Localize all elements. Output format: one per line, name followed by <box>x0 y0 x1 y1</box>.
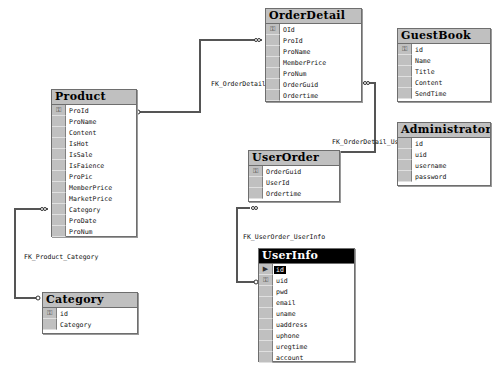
row-pointer-icon[interactable]: ▶ <box>259 264 273 275</box>
table-category[interactable]: Category ⚿idCategory <box>42 292 138 334</box>
field-row[interactable]: email <box>259 297 354 308</box>
row-selector[interactable] <box>249 177 263 188</box>
row-selector[interactable] <box>398 160 412 171</box>
table-title[interactable]: OrderDetail <box>266 9 361 24</box>
table-title[interactable]: UserInfo <box>259 249 354 264</box>
field-row[interactable]: SendTime <box>398 88 490 99</box>
field-row[interactable]: MemberPrice <box>52 182 136 193</box>
table-title[interactable]: GuestBook <box>398 29 490 44</box>
field-row[interactable]: ProId <box>266 35 361 46</box>
table-administrator[interactable]: Administrator iduidusernamepassword <box>397 122 491 186</box>
field-row[interactable]: ProNum <box>52 226 136 237</box>
field-row[interactable]: uid <box>398 149 490 160</box>
row-selector[interactable] <box>259 352 273 363</box>
field-row[interactable]: Ordertime <box>249 188 339 199</box>
row-selector[interactable] <box>266 79 280 90</box>
field-row[interactable]: uname <box>259 308 354 319</box>
row-selector[interactable] <box>259 330 273 341</box>
row-selector[interactable] <box>52 160 66 171</box>
field-row[interactable]: ⚿ProId <box>52 105 136 116</box>
field-row[interactable]: password <box>398 171 490 182</box>
key-icon[interactable]: ⚿ <box>259 275 273 286</box>
key-icon[interactable]: ⚿ <box>398 44 412 55</box>
row-selector[interactable] <box>52 149 66 160</box>
field-row[interactable]: ProPic <box>52 171 136 182</box>
row-selector[interactable] <box>266 68 280 79</box>
row-selector[interactable] <box>52 215 66 226</box>
field-row[interactable]: Category <box>43 319 137 330</box>
field-row[interactable]: account <box>259 352 354 363</box>
row-selector[interactable] <box>52 138 66 149</box>
row-selector[interactable] <box>266 46 280 57</box>
field-row[interactable]: MemberPrice <box>266 57 361 68</box>
field-row[interactable]: ProDate <box>52 215 136 226</box>
table-guestbook[interactable]: GuestBook ⚿idNameTitleContentSendTime <box>397 28 491 102</box>
table-userinfo[interactable]: UserInfo ▶id⚿uidpwdemailunameuaddressuph… <box>258 248 355 362</box>
field-row[interactable]: ▶id <box>259 264 354 275</box>
row-selector[interactable] <box>259 286 273 297</box>
row-selector[interactable] <box>398 171 412 182</box>
key-icon[interactable]: ⚿ <box>52 105 66 116</box>
field-row[interactable]: username <box>398 160 490 171</box>
table-title[interactable]: Category <box>43 293 137 308</box>
row-selector[interactable] <box>398 149 412 160</box>
row-selector[interactable] <box>259 308 273 319</box>
field-row[interactable]: IsHot <box>52 138 136 149</box>
table-title[interactable]: UserOrder <box>249 151 339 166</box>
row-selector[interactable] <box>398 66 412 77</box>
field-row[interactable]: Name <box>398 55 490 66</box>
field-row[interactable]: OrderGuid <box>266 79 361 90</box>
field-name: id <box>57 310 68 318</box>
field-row[interactable]: UserId <box>249 177 339 188</box>
table-userorder[interactable]: UserOrder ⚿OrderGuidUserIdOrdertime <box>248 150 340 202</box>
row-selector[interactable] <box>52 226 66 237</box>
field-row[interactable]: Title <box>398 66 490 77</box>
field-name: username <box>412 162 446 170</box>
key-icon[interactable]: ⚿ <box>43 308 57 319</box>
row-selector[interactable] <box>398 77 412 88</box>
field-row[interactable]: ⚿uid <box>259 275 354 286</box>
row-selector[interactable] <box>52 204 66 215</box>
field-row[interactable]: Ordertime <box>266 90 361 101</box>
row-selector[interactable] <box>259 341 273 352</box>
table-product[interactable]: Product ⚿ProIdProNameContentIsHotIsSaleI… <box>51 89 137 237</box>
table-title[interactable]: Product <box>52 90 136 105</box>
row-selector[interactable] <box>266 57 280 68</box>
row-selector[interactable] <box>43 319 57 330</box>
field-row[interactable]: ⚿OId <box>266 24 361 35</box>
field-row[interactable]: MarketPrice <box>52 193 136 204</box>
field-row[interactable]: Content <box>52 127 136 138</box>
field-row[interactable]: IsSale <box>52 149 136 160</box>
key-icon[interactable]: ⚿ <box>266 24 280 35</box>
field-row[interactable]: Content <box>398 77 490 88</box>
field-row[interactable]: ⚿OrderGuid <box>249 166 339 177</box>
row-selector[interactable] <box>259 319 273 330</box>
row-selector[interactable] <box>266 35 280 46</box>
table-title[interactable]: Administrator <box>398 123 490 138</box>
field-row[interactable]: ProNum <box>266 68 361 79</box>
field-row[interactable]: IsFaience <box>52 160 136 171</box>
field-row[interactable]: ⚿id <box>398 44 490 55</box>
row-selector[interactable] <box>259 297 273 308</box>
field-row[interactable]: uphone <box>259 330 354 341</box>
row-selector[interactable] <box>52 116 66 127</box>
field-row[interactable]: uaddress <box>259 319 354 330</box>
row-selector[interactable] <box>52 182 66 193</box>
row-selector[interactable] <box>398 138 412 149</box>
field-row[interactable]: uregtime <box>259 341 354 352</box>
row-selector[interactable] <box>249 188 263 199</box>
field-row[interactable]: ⚿id <box>43 308 137 319</box>
row-selector[interactable] <box>52 193 66 204</box>
row-selector[interactable] <box>266 90 280 101</box>
row-selector[interactable] <box>398 88 412 99</box>
row-selector[interactable] <box>398 55 412 66</box>
key-icon[interactable]: ⚿ <box>249 166 263 177</box>
field-row[interactable]: id <box>398 138 490 149</box>
field-row[interactable]: pwd <box>259 286 354 297</box>
field-row[interactable]: Category <box>52 204 136 215</box>
row-selector[interactable] <box>52 127 66 138</box>
table-orderdetail[interactable]: OrderDetail ⚿OIdProIdProNameMemberPriceP… <box>265 8 362 102</box>
row-selector[interactable] <box>52 171 66 182</box>
field-row[interactable]: ProName <box>52 116 136 127</box>
field-row[interactable]: ProName <box>266 46 361 57</box>
